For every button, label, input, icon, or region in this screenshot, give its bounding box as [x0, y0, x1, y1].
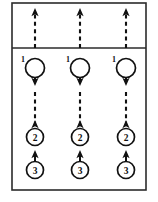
- node-3-group: 3: [118, 162, 135, 179]
- node1-to-node2-dashed-arrow: [76, 92, 83, 132]
- top-dashed-up-arrow: [122, 8, 129, 48]
- column-right: 1 2 3: [112, 8, 136, 179]
- above-node3-up-arrow: [122, 150, 129, 162]
- node-circle-1: [26, 59, 45, 78]
- node-2-label: 2: [33, 133, 38, 143]
- node-3-label: 3: [33, 166, 38, 176]
- node-1-tick-label: 1: [66, 55, 70, 64]
- top-dashed-up-arrow: [76, 8, 83, 48]
- node-1-group: 1: [21, 55, 45, 87]
- above-node3-up-arrow: [76, 150, 83, 162]
- node-3-group: 3: [72, 162, 89, 179]
- node-2-label: 2: [78, 133, 83, 143]
- node1-to-node2-dashed-arrow: [31, 92, 38, 132]
- top-dashed-up-arrow: [31, 8, 38, 48]
- node-2-group: 2: [72, 129, 89, 146]
- node-circle-1: [117, 59, 136, 78]
- diagram-svg: 1 2 3: [0, 0, 158, 202]
- node1-to-node2-dashed-arrow: [122, 92, 129, 132]
- node-1-tick-label: 1: [21, 55, 25, 64]
- node-1-tick-label: 1: [112, 55, 116, 64]
- node-2-group: 2: [118, 129, 135, 146]
- node-circle-1: [71, 59, 90, 78]
- node-3-group: 3: [27, 162, 44, 179]
- node-3-label: 3: [78, 166, 83, 176]
- node-2-group: 2: [27, 129, 44, 146]
- above-node3-up-arrow: [31, 150, 38, 162]
- node-1-group: 1: [112, 55, 136, 87]
- node-1-group: 1: [66, 55, 90, 87]
- node-2-label: 2: [124, 133, 129, 143]
- node-3-label: 3: [124, 166, 129, 176]
- column-center: 1 2 3: [66, 8, 90, 179]
- column-left: 1 2 3: [21, 8, 45, 179]
- diagram-canvas: 1 2 3: [0, 0, 158, 202]
